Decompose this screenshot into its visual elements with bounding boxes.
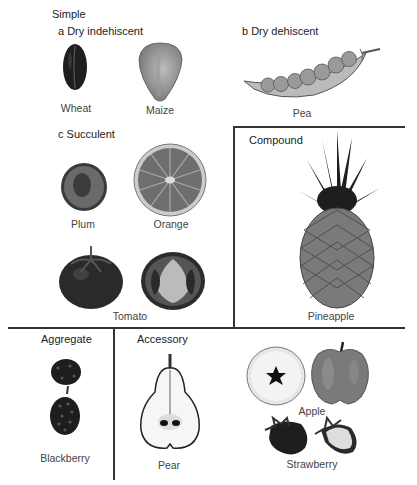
maize-caption: Maize bbox=[146, 104, 174, 116]
plum-illustration bbox=[60, 163, 108, 213]
maize-illustration bbox=[135, 41, 185, 103]
orange-caption: Orange bbox=[153, 218, 188, 230]
apple-cut-illustration bbox=[246, 346, 306, 406]
plum-caption: Plum bbox=[71, 218, 95, 230]
wheat-caption: Wheat bbox=[61, 102, 91, 114]
pear-caption: Pear bbox=[158, 459, 180, 471]
succulent-heading: c Succulent bbox=[58, 128, 115, 140]
pineapple-caption: Pineapple bbox=[308, 310, 355, 322]
blackberry-illustration bbox=[50, 358, 82, 438]
pineapple-illustration bbox=[292, 130, 382, 310]
compound-box-top-border bbox=[233, 126, 405, 128]
wheat-illustration bbox=[60, 43, 90, 93]
strawberry-cut-illustration bbox=[315, 416, 361, 456]
simple-heading: Simple bbox=[52, 8, 86, 20]
tomato-cut-illustration bbox=[140, 251, 206, 311]
blackberry-caption: Blackberry bbox=[40, 452, 90, 464]
pea-illustration bbox=[244, 43, 374, 103]
apple-whole-illustration bbox=[310, 340, 370, 406]
tomato-caption: Tomato bbox=[113, 310, 147, 322]
aggregate-accessory-divider bbox=[113, 327, 115, 480]
dry-indehiscent-heading: a Dry indehiscent bbox=[58, 25, 143, 37]
strawberry-whole-illustration bbox=[265, 416, 311, 456]
accessory-heading: Accessory bbox=[137, 333, 188, 345]
pea-caption: Pea bbox=[293, 107, 312, 119]
compound-box-left-border bbox=[233, 126, 235, 328]
section-divider-horizontal bbox=[8, 327, 405, 329]
orange-illustration bbox=[133, 143, 207, 217]
dry-dehiscent-heading: b Dry dehiscent bbox=[242, 25, 318, 37]
aggregate-heading: Aggregate bbox=[41, 333, 92, 345]
pear-illustration bbox=[137, 352, 203, 452]
strawberry-caption: Strawberry bbox=[287, 458, 338, 470]
tomato-whole-illustration bbox=[57, 242, 125, 310]
